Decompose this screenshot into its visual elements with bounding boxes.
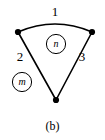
edge-label-3: 3 [73, 50, 91, 63]
vertex-top-left [15, 29, 21, 35]
region-label-m: m [13, 77, 31, 87]
region-label-n: n [47, 39, 65, 49]
vertex-top-right [89, 29, 95, 35]
edge-label-2: 2 [11, 50, 29, 63]
figure-panel-b: 1 2 3 n m (b) [0, 0, 105, 140]
vertex-bottom [53, 97, 59, 103]
edge-label-1: 1 [46, 5, 64, 18]
figure-caption: (b) [0, 120, 105, 132]
edge-1-arc [18, 24, 92, 32]
